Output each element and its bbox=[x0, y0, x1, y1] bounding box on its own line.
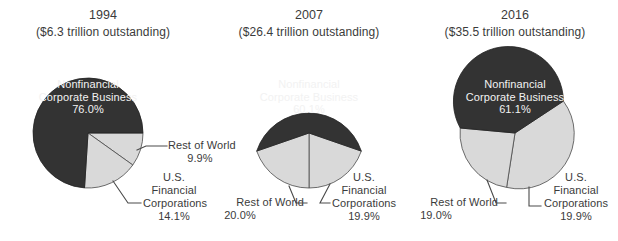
callout-us-financial: U.S. Financial Corporations 19.9% bbox=[332, 171, 396, 223]
callout-rest-of-world-name: Rest of World bbox=[190, 196, 304, 209]
callout-rest-of-world: Rest of World 19.0% bbox=[388, 196, 498, 222]
callout-us-financial-line3: Corporations bbox=[332, 197, 396, 210]
leader-line-us-financial bbox=[529, 187, 541, 206]
chart-panel-2016: 2016 ($35.5 trillion outstanding) Nonfin… bbox=[412, 0, 618, 241]
callout-us-financial-line2: Financial bbox=[332, 184, 396, 197]
callout-us-financial-line1: U.S. bbox=[143, 171, 205, 184]
pie-chart-figure: 1994 ($6.3 trillion outstanding) Nonfina… bbox=[0, 0, 618, 241]
pie-2016: Nonfinancial Corporate Business 61.1% Re… bbox=[412, 0, 618, 241]
callout-us-financial-value: 19.9% bbox=[543, 210, 609, 223]
callout-us-financial-line2: Financial bbox=[543, 184, 609, 197]
callout-rest-of-world-value: 20.0% bbox=[190, 209, 290, 222]
callout-us-financial-line1: U.S. bbox=[332, 171, 396, 184]
leader-line-us-financial bbox=[113, 181, 141, 203]
callout-us-financial-line1: U.S. bbox=[543, 171, 609, 184]
callout-rest-of-world: Rest of World 20.0% bbox=[190, 196, 304, 222]
callout-rest-of-world-value: 19.0% bbox=[388, 209, 484, 222]
callout-us-financial: U.S. Financial Corporations 19.9% bbox=[543, 171, 609, 223]
callout-rest-of-world-name: Rest of World bbox=[388, 196, 498, 209]
pie-1994: Nonfinancial Corporate Business 76.0% Re… bbox=[0, 0, 206, 241]
chart-panel-2007: 2007 ($26.4 trillion outstanding) Nonfin… bbox=[206, 0, 412, 241]
callout-us-financial-value: 19.9% bbox=[332, 210, 396, 223]
pie-2007: Nonfinancial Corporate Business 60.1% Re… bbox=[206, 0, 412, 241]
slice-rest-of-world bbox=[460, 128, 515, 187]
callout-us-financial-line3: Corporations bbox=[543, 197, 609, 210]
chart-panel-1994: 1994 ($6.3 trillion outstanding) Nonfina… bbox=[0, 0, 206, 241]
